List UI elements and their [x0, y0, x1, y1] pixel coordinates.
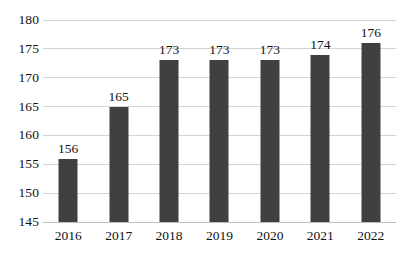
y-tick-label: 180: [5, 13, 39, 27]
bar-value-label: 173: [209, 43, 229, 57]
bar-slot: 173: [144, 20, 194, 222]
x-tick-label: 2020: [256, 228, 283, 243]
bar[interactable]: [210, 60, 229, 222]
x-tick-label: 2018: [156, 228, 183, 243]
bar-value-label: 173: [260, 43, 280, 57]
bar[interactable]: [109, 107, 128, 222]
bar-slot: 174: [295, 20, 345, 222]
y-tick-label: 155: [5, 157, 39, 171]
y-tick-label: 175: [5, 42, 39, 56]
bar-value-label: 176: [361, 26, 381, 40]
y-tick-label: 160: [5, 128, 39, 142]
y-tick-label: 165: [5, 100, 39, 114]
bar[interactable]: [59, 159, 78, 222]
bar-value-label: 156: [58, 142, 78, 156]
bar[interactable]: [260, 60, 279, 222]
x-tick-label: 2019: [206, 228, 233, 243]
y-tick-label: 170: [5, 71, 39, 85]
bar-value-label: 165: [109, 90, 129, 104]
x-axis-tick-labels: 2016201720182019202020212022: [43, 228, 396, 248]
x-tick-label: 2017: [105, 228, 132, 243]
x-tick-label: 2022: [357, 228, 384, 243]
x-tick-label: 2021: [307, 228, 334, 243]
bar-slot: 173: [245, 20, 295, 222]
bar-slot: 165: [93, 20, 143, 222]
y-tick-label: 145: [5, 215, 39, 229]
bar-slot: 176: [346, 20, 396, 222]
y-axis-tick-labels: 180175170165160155150145: [0, 20, 39, 222]
bar-slot: 173: [194, 20, 244, 222]
bar-value-label: 174: [310, 38, 330, 52]
bars-layer: 156165173173173174176: [43, 20, 396, 222]
bar[interactable]: [311, 55, 330, 222]
bar-chart: 180175170165160155150145 156165173173173…: [0, 0, 407, 262]
x-tick-label: 2016: [55, 228, 82, 243]
bar[interactable]: [160, 60, 179, 222]
bar-slot: 156: [43, 20, 93, 222]
y-tick-label: 150: [5, 186, 39, 200]
bar-value-label: 173: [159, 43, 179, 57]
bar[interactable]: [361, 43, 380, 222]
